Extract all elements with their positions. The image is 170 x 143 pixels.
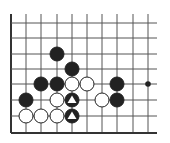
markers-layer bbox=[145, 81, 151, 87]
white-stone bbox=[19, 109, 33, 123]
dot-marker-icon bbox=[145, 81, 151, 87]
black-stone bbox=[50, 47, 64, 61]
go-board-diagram bbox=[0, 0, 170, 143]
white-stone bbox=[34, 109, 48, 123]
white-stone bbox=[50, 93, 64, 107]
white-stone bbox=[95, 93, 109, 107]
white-stone bbox=[50, 109, 64, 123]
black-stone bbox=[19, 93, 33, 107]
black-stone bbox=[34, 77, 48, 91]
white-stone bbox=[80, 77, 94, 91]
black-stone bbox=[110, 77, 124, 91]
black-stone bbox=[50, 77, 64, 91]
white-stone bbox=[65, 77, 79, 91]
black-stone bbox=[110, 93, 124, 107]
black-stone bbox=[65, 62, 79, 76]
